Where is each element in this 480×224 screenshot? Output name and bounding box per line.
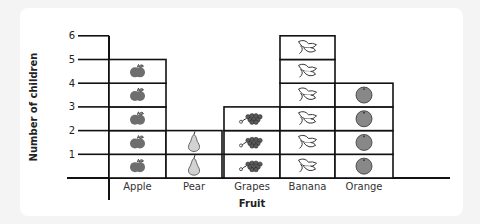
bar-pear	[166, 131, 222, 178]
orange-icon	[356, 158, 372, 174]
y-tick-label: 3	[69, 101, 75, 112]
bar-banana	[280, 36, 335, 178]
x-tick-label: Apple	[123, 181, 151, 192]
y-tick-label: 4	[69, 78, 75, 89]
bar-grapes	[224, 107, 280, 178]
y-tick-label: 6	[69, 30, 75, 41]
orange-icon	[356, 87, 372, 103]
x-tick-label: Banana	[289, 181, 327, 192]
y-tick-label: 2	[69, 125, 75, 136]
x-tick-label: Grapes	[234, 181, 270, 192]
y-axis-label: Number of children	[28, 53, 39, 162]
pictogram-chart: 123456 ApplePearGrapesBananaOrange Fruit…	[0, 0, 480, 224]
bars	[109, 36, 393, 178]
labels: ApplePearGrapesBananaOrange	[123, 181, 382, 192]
orange-icon	[356, 111, 372, 127]
x-tick-label: Orange	[346, 181, 383, 192]
bar-orange	[335, 83, 393, 178]
orange-icon	[356, 134, 372, 150]
y-tick-label: 5	[69, 54, 75, 65]
bar-apple	[109, 60, 166, 179]
x-axis-label: Fruit	[239, 198, 266, 209]
x-tick-label: Pear	[183, 181, 206, 192]
y-tick-label: 1	[69, 149, 75, 160]
